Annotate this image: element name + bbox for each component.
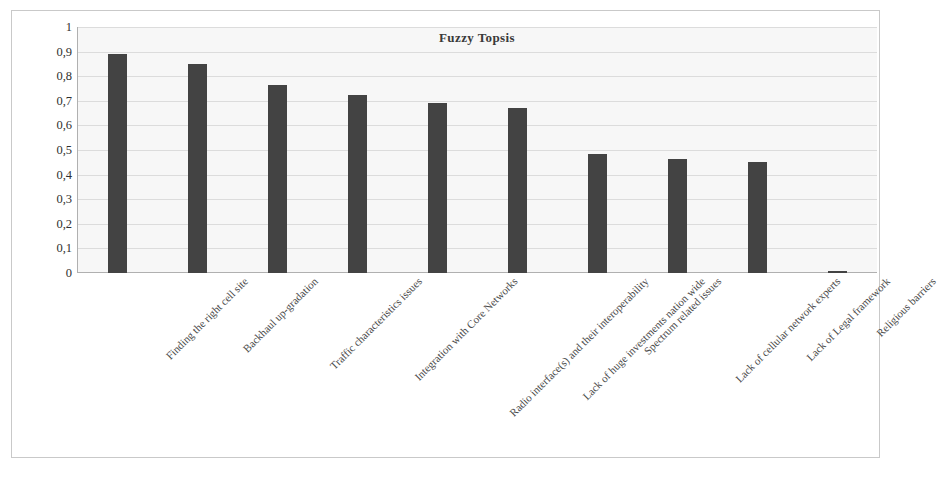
bar <box>108 54 127 273</box>
x-axis-labels: Finding the right cell siteBackhaul up-g… <box>77 275 877 455</box>
y-axis-tick-label: 1 <box>28 21 72 34</box>
x-axis-label-wrapper: Traffic characteristics issues <box>328 275 425 372</box>
x-axis-tick-label: Lack of cellular network experts <box>733 275 843 385</box>
x-axis-label-wrapper: Lack of Legal framework <box>804 275 892 363</box>
y-axis-tick-label: 0 <box>28 267 72 280</box>
x-axis-tick-label: Lack of huge investments nation wide <box>580 275 707 402</box>
x-axis-tick-label: Finding the right cell site <box>163 275 250 362</box>
gridline <box>77 27 877 28</box>
x-axis-label-wrapper: Spectrum related issues <box>641 275 723 357</box>
y-axis-tick-label: 0,6 <box>28 119 72 132</box>
y-axis: 00,10,20,30,40,50,60,70,80,91 <box>22 27 72 273</box>
bar <box>588 154 607 273</box>
bar <box>348 95 367 273</box>
bar <box>428 103 447 273</box>
bar <box>268 85 287 273</box>
y-axis-tick-label: 0,9 <box>28 45 72 58</box>
figure-frame: Fuzzy Topsis 00,10,20,30,40,50,60,70,80,… <box>11 10 880 458</box>
x-axis-label-wrapper: Finding the right cell site <box>163 275 250 362</box>
bar <box>668 159 687 273</box>
gridline <box>77 52 877 53</box>
y-axis-tick-label: 0,8 <box>28 70 72 83</box>
x-axis-tick-label: Lack of Legal framework <box>804 275 892 363</box>
y-axis-tick-label: 0,4 <box>28 168 72 181</box>
y-axis-tick-label: 0,7 <box>28 95 72 108</box>
x-axis-label-wrapper: Backhaul up-gradation <box>240 275 320 355</box>
x-axis-tick-label: Traffic characteristics issues <box>328 275 425 372</box>
x-axis-label-wrapper: Lack of huge investments nation wide <box>580 275 707 402</box>
x-axis-label-wrapper: Lack of cellular network experts <box>733 275 843 385</box>
x-axis-tick-label: Backhaul up-gradation <box>240 275 320 355</box>
y-axis-tick-label: 0,5 <box>28 144 72 157</box>
y-axis-line <box>77 27 78 273</box>
bar <box>748 162 767 273</box>
x-axis-tick-label: Integration with Core Networks <box>412 275 520 383</box>
y-axis-tick-label: 0,2 <box>28 218 72 231</box>
bar-chart: Fuzzy Topsis 00,10,20,30,40,50,60,70,80,… <box>12 11 879 457</box>
bar <box>828 271 847 273</box>
bar <box>508 108 527 273</box>
y-axis-tick-label: 0,1 <box>28 242 72 255</box>
y-axis-tick-label: 0,3 <box>28 193 72 206</box>
bar <box>188 64 207 273</box>
chart-title: Fuzzy Topsis <box>77 30 877 46</box>
x-axis-label-wrapper: Integration with Core Networks <box>412 275 520 383</box>
plot-area <box>77 27 877 273</box>
x-axis-tick-label: Spectrum related issues <box>641 275 723 357</box>
